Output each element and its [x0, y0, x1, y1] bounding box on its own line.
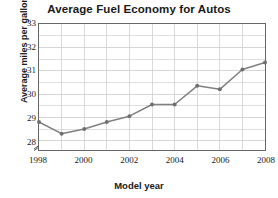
y-tick-label: 29: [2, 113, 36, 123]
y-axis-tick-labels: 282930313233: [0, 23, 36, 151]
y-tick-label: 33: [2, 18, 36, 28]
data-point-marker: 2006: 30.2: [218, 87, 222, 91]
x-axis-title: Model year: [0, 180, 278, 191]
x-tick-label: 2004: [151, 155, 199, 165]
data-point-marker: 2007: 31.05: [240, 68, 244, 72]
data-point-marker: 2000: 28.5: [82, 127, 86, 131]
data-point-marker: 2004: 29.55: [173, 103, 177, 107]
y-tick-label: 31: [2, 65, 36, 75]
data-series-line: 1998: 28.81999: 28.32000: 28.52001: 28.8…: [39, 24, 265, 150]
chart-title: Average Fuel Economy for Autos: [0, 3, 278, 15]
data-point-marker: 2005: 30.35: [195, 84, 199, 88]
fuel-economy-line-chart: Average Fuel Economy for Autos Average m…: [0, 0, 278, 198]
data-point-marker: 1998: 28.8: [37, 120, 41, 124]
y-tick-label: 30: [2, 89, 36, 99]
plot-area: 1998: 28.81999: 28.32000: 28.52001: 28.8…: [38, 23, 266, 151]
data-point-marker: 1999: 28.3: [60, 132, 64, 136]
x-tick-label: 1998: [14, 155, 62, 165]
axis-break-icon: [33, 141, 44, 152]
x-tick-label: 2002: [105, 155, 153, 165]
data-point-marker: 2008: 31.35: [263, 61, 267, 65]
y-tick-label: 28: [2, 137, 36, 147]
x-tick-label: 2006: [196, 155, 244, 165]
data-point-marker: 2002: 29.05: [127, 114, 131, 118]
series-polyline: [39, 62, 265, 133]
y-tick-label: 32: [2, 42, 36, 52]
data-point-marker: 2003: 29.55: [150, 103, 154, 107]
x-tick-label: 2000: [60, 155, 108, 165]
data-point-marker: 2001: 28.8: [105, 120, 109, 124]
x-axis-tick-labels: 199820002002200420062008: [38, 155, 266, 169]
x-tick-label: 2008: [242, 155, 278, 165]
